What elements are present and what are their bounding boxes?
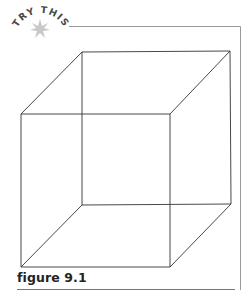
figure-frame xyxy=(69,27,241,291)
figure-caption: figure 9.1 xyxy=(17,270,87,285)
star-burst-icon xyxy=(30,19,50,38)
necker-cube xyxy=(21,51,231,267)
figure-page: TRY THIS figure 9.1 xyxy=(0,0,245,293)
try-this-badge: TRY THIS xyxy=(10,4,72,38)
figure-artwork: TRY THIS xyxy=(0,0,245,293)
